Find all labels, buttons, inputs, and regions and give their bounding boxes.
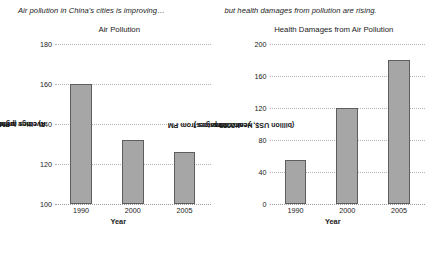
y-axis-tick-label: 160 [40,80,52,89]
y-axis-tick-label: 40 [259,168,267,177]
y-axis-label-right: Health damages from PM10 in cities (bill… [215,38,241,210]
plot-area-right: 04080120160200 [241,44,426,204]
y-axis-tick-label: 120 [255,104,267,113]
x-axis-tick-label: 1990 [287,206,303,215]
axis-area-right: 04080120160200 [270,44,426,204]
panel-caption-right: but health damages from pollution are ri… [215,0,429,22]
y-axis-tick-label: 120 [40,160,52,169]
y-axis-label-left: Average annual exposure levels of PM10 i… [0,38,26,210]
chart-panels: Air pollution in China's cities is impro… [0,0,429,218]
figure-container: Air pollution in China's cities is impro… [0,0,429,264]
y-axis-tick-label: 80 [259,136,267,145]
bar [336,108,358,204]
bar [174,152,196,204]
x-axis-tick-label: 1990 [73,206,89,215]
x-axis-tick-label: 2000 [339,206,355,215]
plot-wrapper-right: Health damages from PM10 in cities (bill… [215,38,429,218]
figure-source-caption [30,254,421,264]
bar [285,160,307,204]
y-axis-tick-label: 200 [255,40,267,49]
panel-caption-left: Air pollution in China's cities is impro… [0,0,215,22]
x-axis-tick-label: 2005 [391,206,407,215]
bar [388,60,410,204]
x-axis-label-left: Year [26,217,211,226]
bar [70,84,92,204]
y-axis-tick-label: 100 [40,200,52,209]
bar-group [270,44,426,204]
x-axis-ticks-right: 199020002005 [270,204,426,216]
x-axis-tick-label: 2005 [177,206,193,215]
y-axis-tick-label: 180 [40,40,52,49]
chart-title-right: Health Damages from Air Pollution [215,22,429,38]
panel-air-pollution: Air pollution in China's cities is impro… [0,0,215,218]
chart-title-left: Air Pollution [0,22,215,38]
y-axis-tick-label: 140 [40,120,52,129]
y-axis-tick-label: 160 [255,72,267,81]
bar [122,140,144,204]
x-axis-ticks-left: 199020002005 [55,204,211,216]
panel-health-damages: but health damages from pollution are ri… [215,0,429,218]
y-axis-tick-label: 0 [263,200,267,209]
x-axis-label-right: Year [241,217,426,226]
x-axis-tick-label: 2000 [125,206,141,215]
